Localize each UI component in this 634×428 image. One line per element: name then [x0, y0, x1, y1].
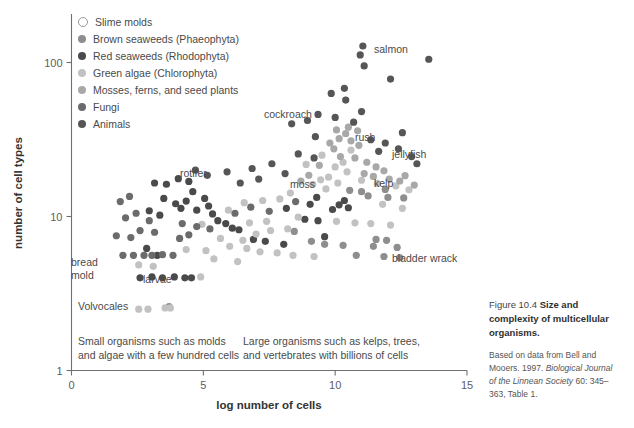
- plot-annotation: salmon: [374, 43, 408, 56]
- legend-item[interactable]: Slime molds: [78, 14, 239, 29]
- data-point: [146, 207, 153, 214]
- data-point: [342, 96, 349, 103]
- region-note: Small organisms such as molds and algae …: [78, 335, 239, 362]
- legend-item-label: Slime molds: [95, 16, 152, 28]
- data-point: [346, 187, 353, 194]
- data-point: [255, 175, 262, 182]
- legend-item[interactable]: Mosses, ferns, and seed plants: [78, 82, 239, 97]
- data-point: [343, 168, 350, 175]
- data-point: [229, 225, 236, 232]
- data-point: [119, 252, 126, 259]
- x-tick-label: 15: [461, 379, 473, 391]
- data-point: [266, 208, 273, 215]
- plot-annotation: Volvocales: [78, 300, 128, 313]
- data-point: [303, 161, 310, 168]
- data-point: [350, 119, 357, 126]
- data-point: [225, 207, 232, 214]
- data-point: [246, 219, 253, 226]
- data-point: [334, 179, 341, 186]
- data-point: [314, 111, 321, 118]
- legend-item[interactable]: Green algae (Chlorophyta): [78, 65, 239, 80]
- data-point: [347, 146, 354, 153]
- data-point: [181, 274, 188, 281]
- figure-caption: Figure 10.4 Size and complexity of multi…: [489, 298, 621, 401]
- data-point: [321, 233, 328, 240]
- data-point: [284, 225, 291, 232]
- data-point: [312, 133, 319, 140]
- plot-annotation: rush: [355, 131, 375, 144]
- data-point: [394, 244, 401, 251]
- data-point: [336, 135, 343, 142]
- data-point: [295, 150, 302, 157]
- plot-annotation: moss: [290, 178, 315, 191]
- legend-item[interactable]: Brown seaweeds (Phaeophyta): [78, 31, 239, 46]
- data-point: [135, 261, 142, 268]
- data-point: [276, 195, 283, 202]
- plot-annotation: rotifer: [180, 167, 207, 180]
- data-point: [205, 202, 212, 209]
- data-point: [413, 160, 420, 167]
- data-point: [308, 238, 315, 245]
- legend-item[interactable]: Red seaweeds (Rhodophyta): [78, 48, 239, 63]
- legend-item-label: Brown seaweeds (Phaeophyta): [93, 33, 239, 45]
- data-point: [425, 56, 432, 63]
- x-tick-label: 0: [68, 379, 74, 391]
- plot-annotation: larvae: [143, 273, 172, 286]
- data-point: [206, 225, 213, 232]
- data-point: [310, 154, 317, 161]
- data-point: [126, 193, 133, 200]
- data-point: [267, 227, 274, 234]
- data-point: [292, 198, 299, 205]
- data-point: [222, 220, 229, 227]
- data-point: [256, 248, 263, 255]
- data-point: [380, 167, 387, 174]
- data-point: [234, 258, 241, 265]
- data-point: [318, 152, 325, 159]
- data-point: [379, 201, 386, 208]
- data-point: [380, 253, 387, 260]
- data-point: [375, 148, 382, 155]
- data-point: [167, 304, 174, 311]
- data-point: [280, 241, 287, 248]
- legend-item[interactable]: Fungi: [78, 99, 239, 114]
- data-point: [316, 162, 323, 169]
- data-point: [201, 195, 208, 202]
- series-brown-seaweeds-phaeophyta: [165, 186, 407, 310]
- data-point: [274, 249, 281, 256]
- data-point: [197, 273, 204, 280]
- data-point: [313, 194, 320, 201]
- legend: Slime moldsBrown seaweeds (Phaeophyta)Re…: [78, 14, 239, 131]
- data-point: [263, 218, 270, 225]
- data-point: [301, 216, 308, 223]
- data-point: [372, 163, 379, 170]
- data-point: [329, 206, 336, 213]
- plot-annotation: bladder wrack: [392, 252, 457, 265]
- data-point: [183, 197, 190, 204]
- data-point: [411, 181, 418, 188]
- data-point: [144, 306, 151, 313]
- data-point: [148, 252, 155, 259]
- legend-item[interactable]: Animals: [78, 116, 239, 131]
- data-point: [382, 139, 389, 146]
- data-point: [288, 120, 295, 127]
- data-point: [400, 194, 407, 201]
- data-point: [237, 179, 244, 186]
- data-point: [399, 129, 406, 136]
- data-point: [372, 236, 379, 243]
- data-point: [367, 220, 374, 227]
- data-point: [156, 212, 163, 219]
- data-point: [159, 251, 166, 258]
- data-point: [243, 245, 250, 252]
- legend-swatch-icon: [78, 35, 86, 43]
- legend-item-label: Mosses, ferns, and seed plants: [93, 84, 238, 96]
- data-point: [321, 241, 328, 248]
- scatter-plot-panel: 110100 051015 log number of cells number…: [0, 0, 478, 428]
- data-point: [363, 159, 370, 166]
- y-tick-label: 10: [50, 211, 62, 223]
- data-point: [358, 108, 365, 115]
- data-point: [342, 130, 349, 137]
- caption-source: Based on data from Bell and Mooers. 1997…: [489, 349, 621, 401]
- data-point: [399, 205, 406, 212]
- data-point: [135, 306, 142, 313]
- x-tick-label: 5: [200, 379, 206, 391]
